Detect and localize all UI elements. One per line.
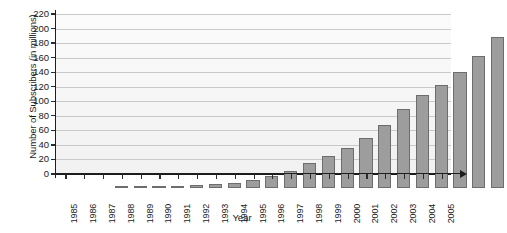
x-axis-title: Year	[0, 212, 484, 223]
y-tick-label: 0	[44, 168, 49, 180]
y-tick: 120	[33, 81, 56, 93]
x-tick-mark	[348, 174, 349, 179]
y-tick: 160	[33, 52, 56, 64]
y-tick: 140	[33, 66, 56, 78]
y-tick-label: 140	[33, 66, 49, 78]
x-tick-mark	[291, 174, 292, 179]
x-tick-mark	[84, 174, 85, 179]
bar-series	[112, 28, 507, 188]
x-tick-mark	[442, 174, 443, 179]
y-tick: 20	[38, 153, 56, 165]
y-tick: 60	[38, 124, 56, 136]
y-tick-label: 40	[38, 139, 49, 151]
bar	[491, 37, 504, 188]
y-axis-ticks: 020406080100120140160180200220	[0, 14, 56, 174]
x-tick-mark	[329, 174, 330, 179]
y-tick-label: 80	[38, 110, 49, 122]
x-tick-mark	[423, 174, 424, 179]
y-tick: 40	[38, 139, 56, 151]
x-tick-mark	[385, 174, 386, 179]
x-tick-mark	[366, 174, 367, 179]
x-tick-mark	[235, 174, 236, 179]
x-tick-mark	[141, 174, 142, 179]
y-tick-label: 200	[33, 23, 49, 35]
x-tick-mark	[272, 174, 273, 179]
x-tick-mark	[216, 174, 217, 179]
x-tick-mark	[404, 174, 405, 179]
x-tick-mark	[197, 174, 198, 179]
bar	[472, 56, 485, 188]
y-tick-label: 180	[33, 37, 49, 49]
y-tick: 180	[33, 37, 56, 49]
y-tick-label: 20	[38, 153, 49, 165]
y-tick-label: 220	[33, 8, 49, 20]
y-axis-line	[55, 10, 56, 178]
y-tick: 100	[33, 95, 56, 107]
x-tick-mark	[103, 174, 104, 179]
x-tick-mark	[122, 174, 123, 179]
y-tick: 80	[38, 110, 56, 122]
x-tick-mark	[65, 174, 66, 179]
x-tick-mark	[254, 174, 255, 179]
x-tick-mark	[178, 174, 179, 179]
y-tick-label: 60	[38, 124, 49, 136]
y-tick: 220	[33, 8, 56, 20]
y-tick: 200	[33, 23, 56, 35]
y-tick-label: 120	[33, 81, 49, 93]
y-tick-label: 160	[33, 52, 49, 64]
y-tick-label: 100	[33, 95, 49, 107]
plot-area	[56, 14, 451, 174]
x-axis-arrow-icon	[460, 170, 467, 178]
x-tick-mark	[159, 174, 160, 179]
x-tick-mark	[310, 174, 311, 179]
